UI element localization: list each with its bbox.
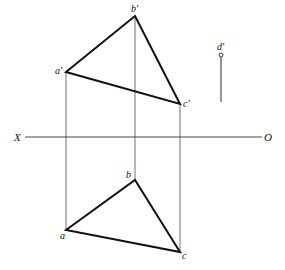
top-view-triangle (66, 180, 180, 252)
label-d-prime: d' (217, 41, 225, 52)
label-b: b (126, 169, 131, 180)
label-c-prime: c' (183, 98, 190, 109)
label-c: c (182, 250, 187, 261)
label-a: a (60, 230, 65, 241)
label-a-prime: a' (55, 65, 63, 76)
axis-label-o: O (264, 131, 272, 143)
axis-label-x: X (13, 131, 22, 143)
point-d-prime-icon (219, 53, 223, 57)
front-view-triangle (66, 16, 180, 104)
label-b-prime: b' (131, 3, 139, 14)
projection-diagram: X O a' b' c' d' a b c (0, 0, 285, 270)
